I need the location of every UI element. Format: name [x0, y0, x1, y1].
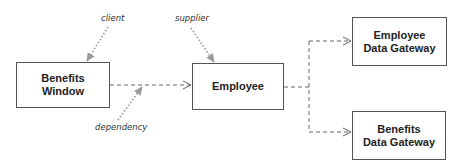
- benefits-data-gateway-box: Benefits Data Gateway: [352, 111, 446, 160]
- dependency-diagram: Benefits Window Employee Employee Data G…: [0, 0, 464, 165]
- employee-box: Employee: [192, 63, 284, 110]
- dependency-annotation: dependency: [95, 122, 147, 132]
- dependency-pointer-arrow: [118, 87, 142, 120]
- benefits-window-label: Benefits Window: [41, 72, 84, 98]
- supplier-annotation: supplier: [175, 13, 209, 23]
- client-annotation: client: [101, 13, 124, 23]
- benefits-window-box: Benefits Window: [16, 62, 110, 108]
- supplier-pointer-arrow: [191, 28, 214, 62]
- benefits-data-gateway-label: Benefits Data Gateway: [363, 123, 435, 149]
- employee-data-gateway-box: Employee Data Gateway: [352, 17, 447, 66]
- employee-label: Employee: [212, 80, 264, 93]
- client-pointer-arrow: [87, 27, 108, 61]
- employee-data-gateway-label: Employee Data Gateway: [363, 29, 435, 55]
